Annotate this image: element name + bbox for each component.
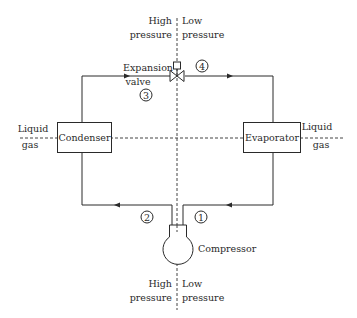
- top-high-pressure-label: pressure: [130, 29, 173, 40]
- state-point-4: 4: [196, 60, 208, 72]
- evaporator-box: Evaporator: [244, 123, 301, 153]
- left-gas-label: gas: [22, 139, 39, 150]
- top-low-label: Low: [182, 15, 202, 26]
- bottom-high-pressure-label: pressure: [130, 292, 173, 303]
- condenser-label: Condenser: [59, 132, 111, 143]
- svg-text:1: 1: [198, 212, 204, 223]
- state-point-2: 2: [141, 211, 153, 223]
- right-liquid-label: Liquid: [302, 121, 333, 132]
- valve-label: valve: [124, 76, 150, 87]
- state-point-3: 3: [140, 89, 152, 101]
- flow-arrow-2: [114, 203, 120, 208]
- refrigeration-cycle-diagram: High pressure Low pressure Expansion val…: [0, 0, 357, 318]
- top-low-pressure-label: pressure: [182, 29, 225, 40]
- condenser-box: Condenser: [58, 123, 112, 153]
- bottom-low-pressure-label: pressure: [182, 292, 225, 303]
- evaporator-label: Evaporator: [245, 132, 300, 143]
- svg-text:4: 4: [199, 61, 205, 72]
- bottom-high-label: High: [148, 278, 172, 289]
- expansion-label: Expansion: [123, 62, 173, 73]
- left-liquid-label: Liquid: [18, 123, 49, 134]
- flow-arrow-4: [227, 74, 233, 79]
- svg-text:3: 3: [143, 90, 149, 101]
- top-high-label: High: [148, 15, 172, 26]
- svg-text:2: 2: [144, 212, 150, 223]
- pipe-compressor-to-condenser: [82, 152, 172, 225]
- flow-arrow-1: [226, 203, 232, 208]
- compressor-label: Compressor: [198, 243, 257, 254]
- compressor-icon: [163, 225, 193, 264]
- right-gas-label: gas: [313, 139, 330, 150]
- state-point-1: 1: [195, 211, 207, 223]
- pipe-evaporator-to-compressor: [183, 152, 273, 225]
- pipe-valve-to-evaporator: [185, 76, 273, 122]
- bottom-low-label: Low: [182, 278, 202, 289]
